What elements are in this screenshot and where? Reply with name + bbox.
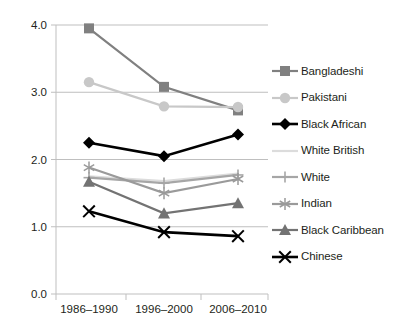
series-markers (83, 23, 244, 242)
y-axis-ticks (51, 25, 56, 294)
y-tick-label: 1.0 (31, 221, 47, 233)
legend-swatch-triangle-icon (272, 222, 298, 238)
legend-item-chinese[interactable]: Chinese (272, 244, 405, 271)
series-marker-white (159, 178, 170, 189)
series-marker-bangladeshi (159, 82, 169, 92)
legend-label: Pakistani (301, 92, 347, 104)
y-axis-tick-labels: 0.01.02.03.04.0 (31, 19, 47, 300)
x-tick-label: 1996–2000 (135, 303, 193, 315)
legend-label: Indian (301, 198, 332, 210)
series-marker-pakistani (84, 77, 94, 87)
line-chart: 0.01.02.03.04.0 1986–19901996–20002006–2… (0, 0, 405, 328)
legend-label: Chinese (301, 251, 343, 263)
legend-label: White British (301, 145, 364, 157)
legend-label: White (301, 172, 330, 184)
y-tick-label: 0.0 (31, 288, 47, 300)
y-tick-label: 3.0 (31, 86, 47, 98)
series-marker-black-african (158, 150, 170, 162)
legend-item-pakistani[interactable]: Pakistani (272, 85, 405, 112)
legend-swatch-cross-icon (272, 249, 298, 265)
x-axis-tick-labels: 1986–19901996–20002006–2010 (60, 303, 267, 315)
series-line-bangladeshi (89, 28, 238, 110)
legend-label: Black Caribbean (301, 225, 384, 237)
series-marker-pakistani (159, 101, 169, 111)
chart-legend: BangladeshiPakistaniBlack AfricanWhite B… (272, 58, 405, 270)
series-marker-pakistani (233, 102, 243, 112)
legend-marker (280, 93, 290, 103)
legend-marker (280, 66, 290, 76)
series-marker-black-african (83, 137, 95, 149)
legend-item-bangladeshi[interactable]: Bangladeshi (272, 58, 405, 85)
legend-label: Bangladeshi (301, 66, 363, 78)
legend-swatch-none-icon (272, 143, 298, 159)
legend-item-black-african[interactable]: Black African (272, 111, 405, 138)
legend-item-black-caribbean[interactable]: Black Caribbean (272, 217, 405, 244)
legend-label: Black African (301, 119, 366, 131)
legend-swatch-diamond-icon (272, 116, 298, 132)
legend-swatch-square-icon (272, 63, 298, 79)
series-marker-black-african (232, 129, 244, 141)
legend-swatch-circle-icon (272, 90, 298, 106)
series-lines (89, 28, 238, 236)
legend-marker (280, 172, 291, 183)
legend-swatch-plus-icon (272, 169, 298, 185)
x-tick-label: 2006–2010 (209, 303, 267, 315)
x-axis-ticks (56, 294, 268, 300)
legend-marker (279, 118, 291, 130)
legend-item-white-british[interactable]: White British (272, 138, 405, 165)
y-tick-label: 4.0 (31, 19, 47, 31)
legend-item-indian[interactable]: Indian (272, 191, 405, 218)
series-marker-bangladeshi (84, 23, 94, 33)
x-tick-label: 1986–1990 (60, 303, 118, 315)
y-tick-label: 2.0 (31, 154, 47, 166)
legend-item-white[interactable]: White (272, 164, 405, 191)
series-marker-indian (84, 162, 94, 174)
legend-swatch-asterisk-icon (272, 196, 298, 212)
